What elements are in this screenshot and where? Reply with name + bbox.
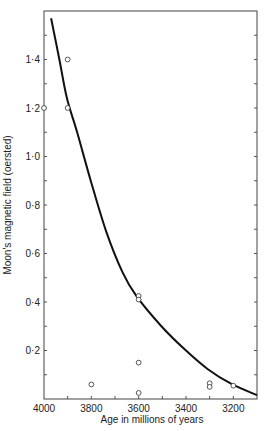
- y-tick-label: 0·2: [26, 345, 41, 356]
- curve-path: [51, 18, 257, 395]
- x-tick-label: 3600: [128, 403, 151, 414]
- data-point-marker: [136, 391, 141, 396]
- y-tick-label: 0·6: [26, 248, 41, 259]
- data-point-marker: [65, 57, 70, 62]
- x-tick-label: 3200: [222, 403, 245, 414]
- y-tick-label: 0·8: [26, 200, 41, 211]
- x-tick-label: 4000: [33, 403, 56, 414]
- y-tick-label: 1·2: [26, 103, 41, 114]
- x-axis-title: Age in millions of years: [101, 414, 204, 425]
- plot-frame: [44, 11, 257, 399]
- y-axis-title: Moon's magnetic field (oersted): [2, 135, 13, 274]
- data-point-marker: [89, 382, 94, 387]
- y-tick-label: 0·4: [26, 297, 41, 308]
- data-points: [42, 57, 236, 395]
- magnetic-field-chart: 40003800360034003200 0·20·40·60·81·01·21…: [0, 0, 270, 431]
- fitted-curve: [51, 18, 257, 395]
- y-axis-ticks: 0·20·40·60·81·01·21·4: [26, 35, 257, 375]
- axes-box: [44, 11, 257, 399]
- y-tick-label: 1·0: [26, 151, 41, 162]
- x-tick-label: 3400: [175, 403, 198, 414]
- data-point-marker: [42, 106, 47, 111]
- data-point-marker: [136, 360, 141, 365]
- y-tick-label: 1·4: [26, 54, 41, 65]
- data-point-marker: [65, 106, 70, 111]
- data-point-marker: [231, 383, 236, 388]
- data-point-marker: [136, 297, 141, 302]
- data-point-marker: [207, 384, 212, 389]
- x-tick-label: 3800: [80, 403, 103, 414]
